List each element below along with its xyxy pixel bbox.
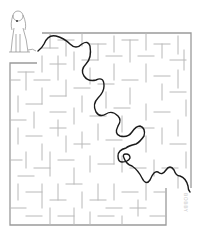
artist-signature: BOBBY	[178, 193, 188, 212]
dog-icon	[9, 11, 36, 52]
solution-path	[38, 36, 190, 192]
maze-walls	[10, 33, 186, 225]
maze-border	[10, 33, 191, 225]
maze-worksheet: BOBBY	[0, 0, 204, 235]
maze-canvas	[0, 0, 204, 235]
